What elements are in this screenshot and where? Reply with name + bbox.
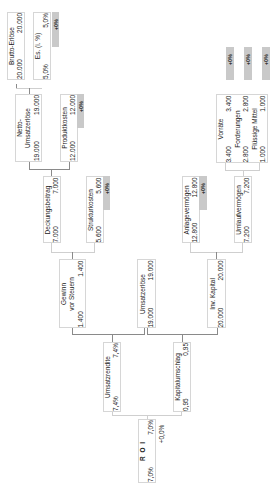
plan-value: 20.000 [217, 307, 225, 327]
delta-text: +0% [200, 183, 206, 194]
delta-badge: +0% [52, 12, 59, 47]
actual-value: 19.000 [147, 260, 155, 280]
delta-text: +0,0% [158, 425, 165, 444]
plan-value: 7,0% [147, 467, 155, 482]
node-label: Umsatzerlöse [138, 260, 146, 327]
connector [182, 334, 183, 342]
actual-value: 1.400 [77, 260, 85, 276]
plan-value: 1.000 [259, 146, 267, 162]
node-label-fluessige-mittel: Flüssige Mittel [250, 95, 258, 162]
node-label: R O I [139, 420, 147, 482]
delta-badge-forderungen: +0% [244, 47, 252, 80]
node-label-forderungen: Forderungen [234, 95, 242, 162]
connector [181, 412, 182, 416]
node-strukturkosten[interactable]: Strukturkosten 5.6005.600 [86, 176, 104, 243]
roi-delta: +0,0% [157, 419, 165, 449]
actual-value: 1.000 [259, 95, 267, 111]
delta-text: +0% [53, 19, 59, 30]
connector [242, 243, 243, 253]
plan-value: 20.000 [16, 59, 24, 79]
plan-value: 12.800 [191, 222, 199, 242]
node-umsatzerloese[interactable]: Umsatzerlöse 19.00019.000 [137, 259, 156, 328]
connector [144, 328, 145, 335]
actual-value: 0,95 [182, 343, 190, 356]
connector [72, 252, 73, 259]
delta-badge-fluessige-mittel: +0% [262, 47, 270, 80]
node-inv-kapital[interactable]: Inv. Kapital 20.00020.000 [207, 259, 226, 328]
connector [51, 169, 52, 176]
node-brutto-erloese[interactable]: Brutto-Erlöse 20.00020.000 [7, 12, 25, 80]
node-label: Deckungsbeitrag [44, 177, 52, 242]
node-label: Umsatzerlöse [24, 95, 32, 161]
plan-value: 19.000 [33, 141, 41, 161]
delta-text: +0% [78, 101, 84, 112]
node-anlagevermoegen[interactable]: Anlagevermögen 12.80012.800 [182, 176, 200, 243]
plan-value: 0,95 [182, 398, 190, 411]
delta-badge: +0% [199, 176, 207, 210]
actual-value: 3.400 [225, 95, 233, 111]
node-label: Strukturkosten [87, 177, 95, 242]
connector [51, 252, 95, 253]
actual-value: 5,0% [42, 13, 50, 28]
connector [217, 328, 218, 335]
plan-value: 7.000 [52, 226, 60, 242]
node-label: Brutto-Erlöse [8, 13, 16, 79]
delta-text: +0% [263, 54, 269, 65]
plan-value: 3.400 [225, 146, 233, 162]
delta-text: +0% [227, 54, 233, 65]
plan-value: 1.400 [77, 311, 85, 327]
plan-value: 12.000 [69, 141, 77, 161]
connector [216, 252, 217, 259]
actual-value: 20.000 [217, 260, 225, 280]
node-roi[interactable]: R O I 7,0%7,0% [138, 419, 156, 483]
node-netto-umsatzerloese[interactable]: Netto- Umsatzerlöse 19.00019.000 [15, 94, 42, 162]
node-label: Netto- [16, 95, 24, 161]
node-label: Umlaufvermögen [235, 177, 243, 242]
connector [94, 243, 95, 253]
actual-value: 19.000 [33, 95, 41, 115]
node-umlauf-details[interactable]: Vorräte 3.4003.400 Forderungen 2.8002.80… [216, 94, 268, 163]
node-label: Umsatzrendite [104, 343, 112, 411]
node-label-vorraete: Vorräte [217, 95, 225, 162]
node-es[interactable]: Es. (i. %) 5,0%5,0% [33, 12, 51, 80]
node-kapitalumschlag[interactable]: Kapitalumschlag 0,950,95 [173, 342, 191, 412]
plan-value: 7.200 [243, 226, 251, 242]
actual-value: 2.800 [242, 95, 250, 111]
actual-value: 7.000 [52, 177, 60, 193]
node-produktkosten[interactable]: Produktkosten 12.00012.000 [60, 94, 78, 162]
plan-value: 5.600 [95, 226, 103, 242]
node-umsatzrendite[interactable]: Umsatzrendite 7,4%7,4% [103, 342, 121, 412]
plan-value: 5,0% [42, 64, 50, 79]
node-deckungsbeitrag[interactable]: Deckungsbeitrag 7.0007.000 [43, 176, 61, 243]
plan-value: 7,4% [112, 396, 120, 411]
node-label: vor Steuern [68, 260, 76, 327]
connector [69, 162, 70, 170]
plan-value: 19.000 [147, 307, 155, 327]
node-label: Kapitalumschlag [174, 343, 182, 411]
node-label: Inv. Kapital [208, 260, 216, 327]
actual-value: 7,0% [147, 420, 155, 435]
delta-badge: +0% [103, 176, 110, 210]
plan-value: 2.800 [242, 146, 250, 162]
connector [112, 334, 113, 342]
delta-badge-vorraete: +0% [226, 47, 234, 80]
node-label: Anlagevermögen [183, 177, 191, 242]
connector [259, 163, 260, 171]
node-label: Gewinn [60, 260, 68, 327]
connector [72, 334, 144, 335]
node-gewinn-vor-steuern[interactable]: Gewinn vor Steuern 1.4001.400 [59, 259, 86, 328]
delta-text: +0% [245, 54, 251, 65]
node-label: Es. (i. %) [34, 13, 42, 79]
actual-value: 7,4% [112, 343, 120, 358]
node-umlaufvermoegen[interactable]: Umlaufvermögen 7.2007.200 [234, 176, 252, 243]
connector [29, 169, 70, 170]
node-label: Produktkosten [61, 95, 69, 161]
actual-value: 20.000 [16, 13, 24, 33]
actual-value: 7.200 [243, 177, 251, 193]
delta-text: +0% [104, 183, 110, 194]
delta-badge: +0% [77, 94, 84, 128]
